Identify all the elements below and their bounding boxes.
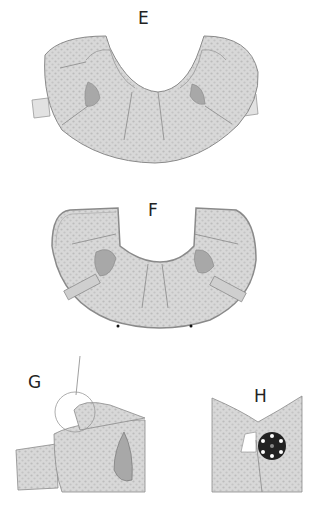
step-e-collar [32,36,258,163]
sewing-diagram [0,0,315,518]
step-h-closure [212,396,302,492]
step-label-e: E [138,8,149,28]
step-label-f: F [148,200,158,220]
step-f-collar [52,208,256,328]
step-label-g: G [28,372,41,392]
step-label-h: H [254,386,267,406]
